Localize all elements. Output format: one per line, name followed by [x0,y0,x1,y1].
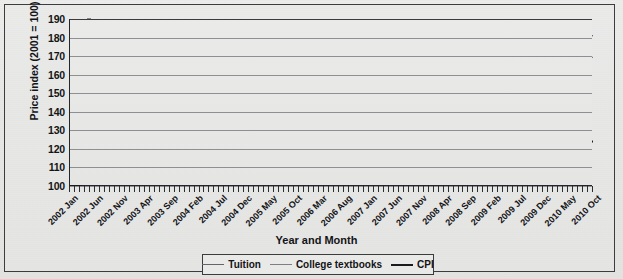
x-tick-mark [194,186,195,192]
y-tick-label-160: 160 [48,69,65,81]
x-tick-mark [263,186,264,192]
x-tick-mark [99,186,100,192]
x-tick-mark [293,186,294,192]
x-tick-mark [502,186,503,192]
chart-figure: Price index (2001 = 100) 100110120130140… [0,0,623,279]
x-tick-mark [433,186,434,192]
gridline-110 [70,167,592,168]
gridline-120 [70,149,592,150]
x-tick-mark [353,186,354,192]
x-tick-mark [149,186,150,192]
y-axis-ticks: 100110120130140150160170180190 [27,19,65,186]
x-tick-mark [567,186,568,192]
gridline-140 [70,112,592,113]
x-tick-mark [467,186,468,192]
x-tick-mark [228,186,229,192]
legend-swatch-icon [391,264,413,266]
x-tick-mark [448,186,449,192]
x-tick-mark [482,186,483,192]
x-tick-mark [94,186,95,192]
x-axis-labels: 2002 Jan2002 Jun2002 Nov2003 Apr2003 Sep… [5,193,623,239]
x-tick-mark [238,186,239,192]
x-tick-mark [428,186,429,192]
legend-item-cpi: CPI [391,259,434,270]
x-tick-mark [378,186,379,192]
x-tick-mark [223,186,224,192]
x-tick-mark [208,186,209,192]
x-tick-mark [129,186,130,192]
x-tick-mark [552,186,553,192]
y-tick-label-180: 180 [48,32,65,44]
x-tick-mark [577,186,578,192]
x-tick-mark [527,186,528,192]
x-tick-mark [418,186,419,192]
x-tick-mark [174,186,175,192]
x-tick-mark [582,186,583,192]
x-tick-mark [462,186,463,192]
x-tick-mark [258,186,259,192]
x-tick-mark [79,186,80,192]
plot-area [69,19,592,186]
x-tick-mark [557,186,558,192]
x-tick-mark [69,186,70,192]
legend-item-college-textbooks: College textbooks [270,259,382,270]
x-tick-mark [283,186,284,192]
gridline-180 [70,38,592,39]
x-tick-mark [333,186,334,192]
y-tick-label-120: 120 [48,143,65,155]
chart-title-cropped [5,0,623,6]
x-tick-mark [587,186,588,192]
x-tick-mark [318,186,319,192]
x-tick-mark [592,186,593,192]
x-tick-mark [159,186,160,192]
x-tick-mark [512,186,513,192]
y-tick-label-190: 190 [48,13,65,25]
gridline-160 [70,75,592,76]
x-tick-mark [492,186,493,192]
chart-legend: TuitionCollege textbooksCPI [202,254,434,275]
x-tick-mark [104,186,105,192]
y-tick-label-150: 150 [48,87,65,99]
legend-swatch-icon [270,264,292,265]
x-tick-mark [119,186,120,192]
x-tick-mark [532,186,533,192]
x-tick-mark [328,186,329,192]
gridline-150 [70,93,592,94]
x-tick-mark [114,186,115,192]
legend-label: College textbooks [296,259,382,270]
x-tick-mark [507,186,508,192]
x-tick-mark [487,186,488,192]
x-tick-mark [477,186,478,192]
plot-background [70,19,592,185]
x-tick-mark [323,186,324,192]
x-tick-mark [164,186,165,192]
x-tick-mark [343,186,344,192]
x-tick-mark [358,186,359,192]
x-tick-mark [562,186,563,192]
gridline-130 [70,130,592,131]
x-tick-mark [179,186,180,192]
x-tick-mark [403,186,404,192]
x-tick-mark [248,186,249,192]
x-tick-mark [368,186,369,192]
x-tick-mark [497,186,498,192]
x-tick-mark [517,186,518,192]
x-tick-mark [268,186,269,192]
x-tick-mark [313,186,314,192]
x-tick-mark [373,186,374,192]
x-tick-mark [169,186,170,192]
x-tick-mark [383,186,384,192]
x-tick-mark [74,186,75,192]
x-tick-mark [218,186,219,192]
chart-frame: Price index (2001 = 100) 100110120130140… [4,4,615,272]
y-tick-label-140: 140 [48,106,65,118]
x-tick-mark [288,186,289,192]
gridline-170 [70,56,592,57]
x-axis-title: Year and Month [5,234,623,246]
legend-item-tuition: Tuition [202,259,261,270]
x-tick-mark [547,186,548,192]
y-tick-label-110: 110 [49,161,65,173]
legend-label: CPI [417,259,434,270]
gridline-190 [70,19,592,20]
x-tick-mark [213,186,214,192]
